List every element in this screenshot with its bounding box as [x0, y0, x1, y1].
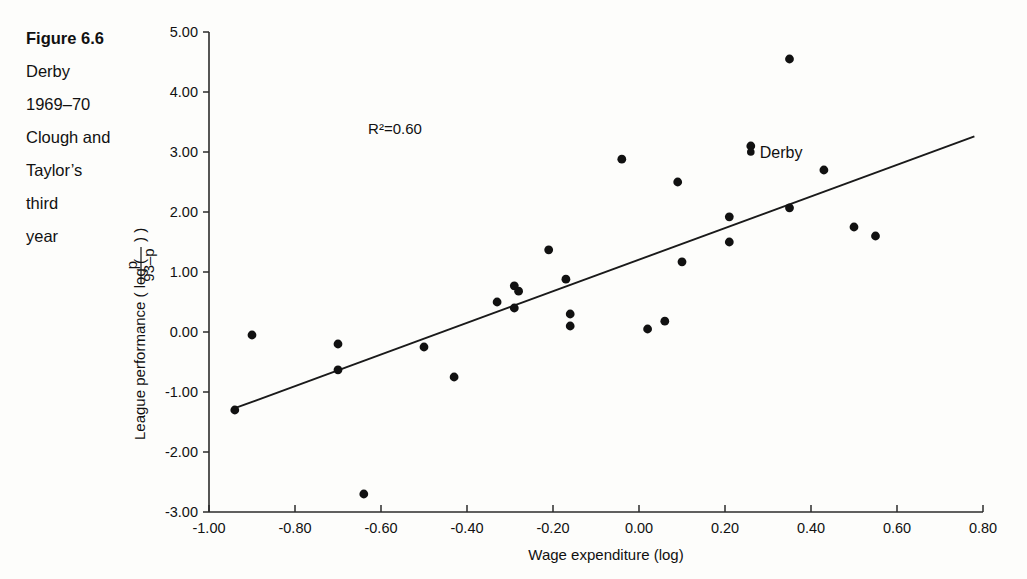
y-tick-label: 0.00: [170, 324, 198, 340]
data-point: [514, 287, 523, 296]
x-tick-label: 0.80: [969, 520, 997, 536]
x-tick-label: -0.60: [364, 520, 397, 536]
point-labels: Derby: [747, 144, 802, 161]
data-point: [643, 325, 652, 334]
y-tick-label: 2.00: [170, 204, 198, 220]
y-tick-label: 4.00: [170, 84, 198, 100]
data-point: [562, 275, 571, 284]
figure-container: Figure 6.6 Derby 1969–70 Clough and Tayl…: [0, 0, 1027, 579]
data-point: [230, 406, 239, 415]
data-point: [334, 340, 343, 349]
data-point: [660, 317, 669, 326]
data-point: [248, 331, 257, 340]
data-point: [450, 373, 459, 382]
y-axis-title-suffix: ) ): [131, 228, 148, 242]
x-tick-label: -1.00: [192, 520, 225, 536]
x-tick-label: 0.40: [797, 520, 825, 536]
data-point: [725, 238, 734, 247]
data-point: [617, 155, 626, 164]
data-point: [871, 232, 880, 241]
data-point: [850, 223, 859, 232]
data-point: [510, 304, 519, 313]
y-tick-label: -1.00: [165, 384, 198, 400]
chart-annotations: R²=0.60: [368, 120, 422, 137]
y-axis-title-group: League performance ( log (p93–p) ): [123, 228, 157, 440]
y-axis-ticks: 5.004.003.002.001.000.00-1.00-2.00-3.00: [165, 24, 209, 520]
derby-marker: [747, 148, 755, 156]
x-axis-title: Wage expenditure (log): [528, 546, 683, 563]
x-axis-ticks: -1.00-0.80-0.60-0.40-0.200.000.200.400.6…: [192, 505, 997, 536]
data-point: [334, 365, 343, 374]
x-tick-label: 0.60: [883, 520, 911, 536]
y-tick-label: 5.00: [170, 24, 198, 40]
scatter-plot: 5.004.003.002.001.000.00-1.00-2.00-3.00 …: [0, 0, 1027, 579]
data-point: [673, 178, 682, 187]
data-point: [785, 55, 794, 64]
y-axis-title: League performance ( log (p93–p) ): [123, 228, 157, 440]
y-axis-fraction-denominator: 93–p: [140, 248, 157, 281]
y-axis-title-prefix: League performance ( log (: [131, 259, 148, 440]
data-points: [230, 55, 879, 499]
data-point: [566, 322, 575, 331]
data-point: [544, 245, 553, 254]
y-tick-label: 1.00: [170, 264, 198, 280]
r-squared-annotation: R²=0.60: [368, 120, 422, 137]
derby-point-label: Derby: [760, 144, 803, 161]
x-tick-label: -0.80: [278, 520, 311, 536]
data-point: [493, 298, 502, 307]
data-point: [725, 212, 734, 221]
y-tick-label: -2.00: [165, 444, 198, 460]
x-tick-label: -0.40: [450, 520, 483, 536]
y-tick-label: 3.00: [170, 144, 198, 160]
data-point: [785, 203, 794, 212]
x-tick-label: 0.20: [711, 520, 739, 536]
data-point: [359, 490, 368, 499]
data-point: [566, 310, 575, 319]
data-point: [420, 343, 429, 352]
y-axis-fraction-numerator: p: [123, 261, 140, 269]
trend-line: [235, 136, 975, 408]
data-point: [820, 166, 829, 175]
y-tick-label: -3.00: [165, 504, 198, 520]
data-point: [678, 257, 687, 266]
x-tick-label: -0.20: [536, 520, 569, 536]
x-tick-label: 0.00: [625, 520, 653, 536]
